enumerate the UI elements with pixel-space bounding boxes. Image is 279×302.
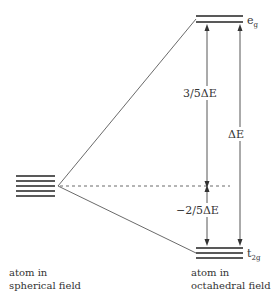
total-split-label: ΔE xyxy=(228,128,244,141)
degenerate-levels xyxy=(16,176,55,196)
connector-upper xyxy=(58,19,196,186)
octahedral-caption-line2: octahedral field xyxy=(191,280,271,291)
spherical-caption-line2: spherical field xyxy=(9,280,82,291)
splitting-diagram: eg t2g 3/5ΔE −2/5ΔE ΔE atom in spherical… xyxy=(0,0,279,302)
t2g-label: t2g xyxy=(247,247,261,262)
eg-label: eg xyxy=(247,14,259,29)
t2g-levels xyxy=(196,248,243,258)
connector-lower xyxy=(58,186,196,253)
upper-shift-label: 3/5ΔE xyxy=(183,87,217,100)
octahedral-caption-line1: atom in xyxy=(191,267,230,278)
inner-arrow-up xyxy=(205,24,210,188)
eg-levels xyxy=(196,16,243,22)
spherical-caption-line1: atom in xyxy=(9,267,48,278)
lower-shift-label: −2/5ΔE xyxy=(176,204,219,217)
